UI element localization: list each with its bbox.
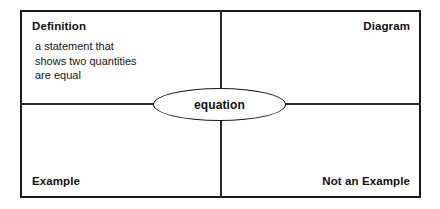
- quadrant-example-label: Example: [32, 175, 80, 188]
- quadrant-definition-label: Definition: [32, 20, 86, 33]
- quadrant-not-an-example-label: Not an Example: [322, 175, 410, 188]
- center-term-ellipse: equation: [153, 88, 286, 121]
- quadrant-definition-body: a statement that shows two quantities ar…: [35, 39, 137, 83]
- quadrant-diagram-label: Diagram: [363, 20, 410, 33]
- frayer-model-diagram: Definition a statement that shows two qu…: [0, 0, 440, 209]
- center-term-label: equation: [194, 98, 245, 112]
